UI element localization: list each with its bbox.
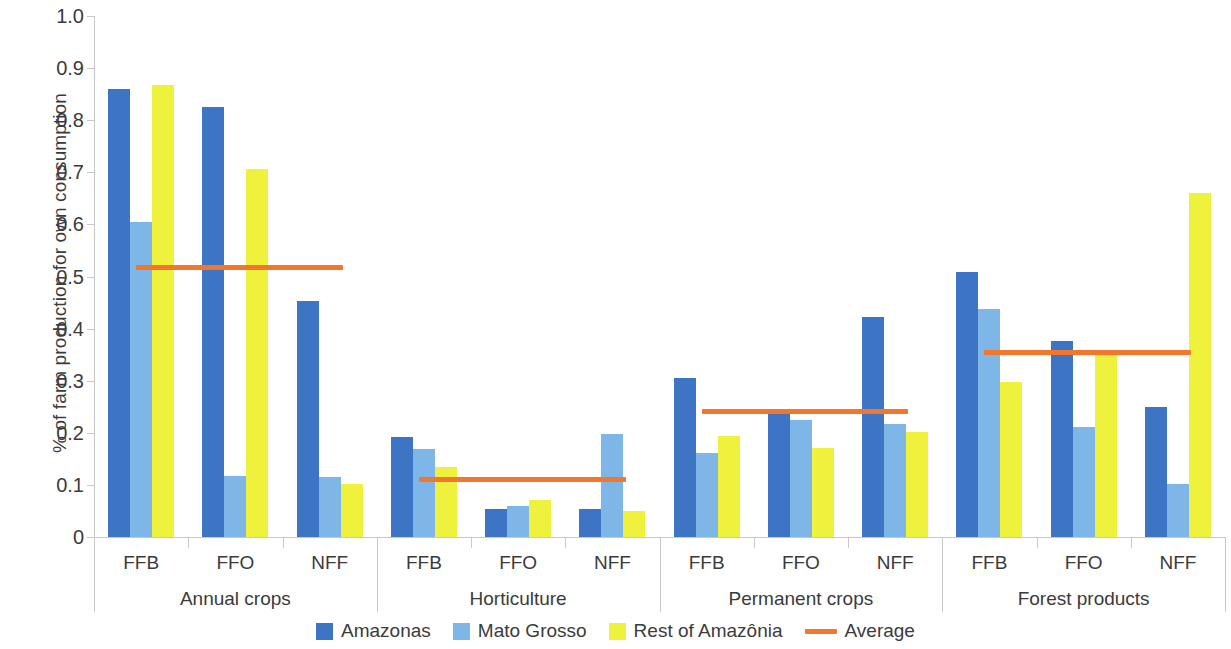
legend-label: Mato Grosso [478,620,587,642]
x-axis-tick-mark [1037,537,1038,548]
bar [485,509,507,537]
group-separator [942,537,943,612]
bar [623,511,645,537]
y-axis-tick-label: 0.3 [38,371,84,391]
group-separator [377,537,378,612]
y-axis-tick-mark [87,277,94,278]
bar [674,378,696,537]
x-axis-group-label: Horticulture [470,588,567,610]
average-line [984,350,1191,355]
bar-chart: % of farm production for own consumption… [0,0,1231,649]
bar [718,436,740,537]
bar [1095,354,1117,537]
legend-swatch-icon [609,623,626,640]
y-axis-tick-mark [87,68,94,69]
y-axis-tick-labels: 1.00.90.80.70.60.50.40.30.20.10 [38,0,84,649]
legend-item[interactable]: Amazonas [316,620,431,642]
bar [862,317,884,537]
y-axis-tick-label: 0 [38,527,84,547]
bar [601,434,623,537]
bar [507,506,529,537]
y-axis-tick-label: 0.6 [38,214,84,234]
bar [1000,382,1022,537]
legend-line-icon [805,629,837,634]
bar [978,309,1000,537]
chart-legend: AmazonasMato GrossoRest of AmazôniaAvera… [0,620,1231,642]
x-axis-tick-mark [471,537,472,548]
legend-item[interactable]: Average [805,620,915,642]
x-axis-tick-mark [848,537,849,548]
x-axis-group-label: Annual crops [180,588,291,610]
y-axis-tick-mark [87,433,94,434]
x-axis-sub-label: NFF [1159,552,1196,574]
legend-label: Amazonas [341,620,431,642]
bar [1073,427,1095,537]
average-line [702,409,909,414]
legend-swatch-icon [453,623,470,640]
x-axis-tick-mark [754,537,755,548]
bar [884,424,906,537]
x-axis-sub-label: NFF [311,552,348,574]
x-axis-sub-label: FFO [782,552,820,574]
bar [906,432,928,537]
x-axis-group-label: Forest products [1018,588,1150,610]
bar [413,449,435,537]
y-axis-tick-label: 0.2 [38,423,84,443]
bar [341,484,363,537]
bar [1189,193,1211,537]
group-separator [1225,537,1226,612]
legend-label: Rest of Amazônia [634,620,783,642]
group-separator [660,537,661,612]
y-axis-tick-mark [87,485,94,486]
x-axis-group-label: Permanent crops [729,588,874,610]
bar [790,420,812,537]
y-axis-tick-mark [87,329,94,330]
y-axis-tick-label: 0.4 [38,319,84,339]
x-axis-sub-label: FFO [499,552,537,574]
legend-swatch-icon [316,623,333,640]
bar [108,89,130,537]
y-axis-tick-mark [87,16,94,17]
y-axis-tick-mark [87,381,94,382]
x-axis-sub-label: NFF [877,552,914,574]
bar [202,107,224,537]
y-axis-tick-label: 0.1 [38,475,84,495]
bar [1145,407,1167,537]
bar [696,453,718,537]
bar [391,437,413,537]
y-axis-tick-label: 0.8 [38,110,84,130]
x-axis-sub-label: FFO [1065,552,1103,574]
bar [579,509,601,537]
average-line [419,477,626,482]
legend-item[interactable]: Rest of Amazônia [609,620,783,642]
bar [529,500,551,537]
x-axis-sub-label: FFB [406,552,442,574]
plot-area [94,16,1225,537]
group-separator [94,537,95,612]
bar [152,85,174,537]
bar [812,448,834,537]
y-axis-tick-label: 0.7 [38,162,84,182]
y-axis-tick-mark [87,120,94,121]
average-line [136,265,343,270]
x-axis-sub-label: NFF [594,552,631,574]
y-axis-tick-label: 1.0 [38,6,84,26]
x-axis-sub-label: FFB [971,552,1007,574]
bar [297,301,319,537]
x-axis-tick-mark [188,537,189,548]
legend-label: Average [845,620,915,642]
x-axis-sub-label: FFB [123,552,159,574]
bar [1167,484,1189,537]
y-axis-tick-mark [87,224,94,225]
x-axis-tick-mark [1131,537,1132,548]
bar [768,409,790,537]
x-axis-tick-mark [565,537,566,548]
bar [1051,341,1073,537]
bar [319,477,341,537]
y-axis-tick-mark [87,537,94,538]
bar [224,476,246,537]
y-axis-tick-label: 0.5 [38,267,84,287]
x-axis-sub-label: FFO [216,552,254,574]
legend-item[interactable]: Mato Grosso [453,620,587,642]
x-axis-sub-label: FFB [689,552,725,574]
